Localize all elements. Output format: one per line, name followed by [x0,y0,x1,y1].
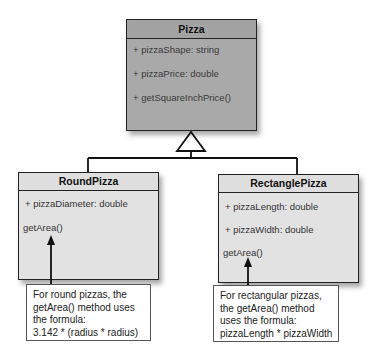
note-line: getArea() method uses [33,302,144,315]
note-line: the formula: [33,314,144,327]
note-line: uses the formula: [220,315,332,328]
note-line: For rectangular pizzas, [220,290,332,303]
arrow-up-icon [244,257,252,267]
note-rectangle-pizza: For rectangular pizzas, the getArea() me… [213,285,339,342]
note-line: For round pizzas, the [33,289,144,302]
note-line: 3.142 * (radius * radius) [33,327,144,340]
note-round-pizza: For round pizzas, the getArea() method u… [26,284,151,341]
note-line: the getArea() method [220,303,332,316]
arrow-up-icon [47,235,55,245]
note-line: pizzaLength * pizzaWidth [220,328,332,341]
